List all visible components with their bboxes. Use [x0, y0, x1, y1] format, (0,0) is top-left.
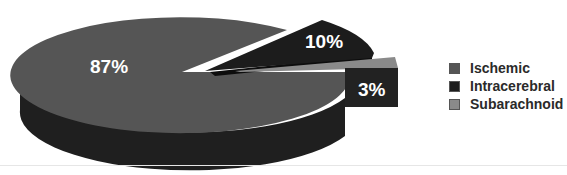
swatch-subarachnoid	[449, 99, 460, 110]
legend-item-ischemic: Ischemic	[449, 59, 563, 77]
legend-label: Ischemic	[470, 60, 530, 76]
label-intracerebral: 10%	[305, 31, 343, 52]
swatch-intracerebral	[449, 81, 460, 92]
legend-item-subarachnoid: Subarachnoid	[449, 95, 563, 113]
label-ischemic: 87%	[90, 56, 128, 77]
legend-item-intracerebral: Intracerebral	[449, 77, 563, 95]
legend-label: Intracerebral	[470, 78, 555, 94]
label-subarachnoid: 3%	[358, 79, 386, 100]
legend: Ischemic Intracerebral Subarachnoid	[449, 59, 563, 113]
divider	[0, 165, 567, 166]
swatch-ischemic	[449, 63, 460, 74]
legend-label: Subarachnoid	[470, 96, 563, 112]
